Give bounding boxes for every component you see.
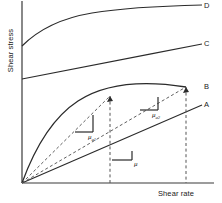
curve-label-d: D [204,1,209,10]
slope-triangle-mu-a1 [75,115,93,132]
slope-triangle-mu-a2 [140,97,158,110]
curve-a [22,105,202,183]
slope-triangle-mu [112,151,132,160]
secant-2-arrowhead [183,87,189,93]
curve-d [22,5,202,46]
mu-label: μ [134,160,138,168]
mu-a1-subscript: a1 [92,137,97,142]
curve-label-a: A [204,100,209,109]
curve-label-c: C [204,39,209,48]
curve-c [22,44,202,79]
flow-curve-plot [0,0,222,203]
mu-a2-subscript: a2 [156,115,161,120]
curve-label-b: B [204,82,209,91]
mu-a1-label: μa1 [88,133,96,142]
y-axis-title: Shear stress [6,23,15,79]
x-axis-title: Shear rate [158,189,194,198]
secant-1-arrowhead [107,96,113,102]
mu-a2-label: μa2 [152,111,160,120]
figure-container: Shear stress Shear rate D C B A μa1 μa2 … [0,0,222,203]
